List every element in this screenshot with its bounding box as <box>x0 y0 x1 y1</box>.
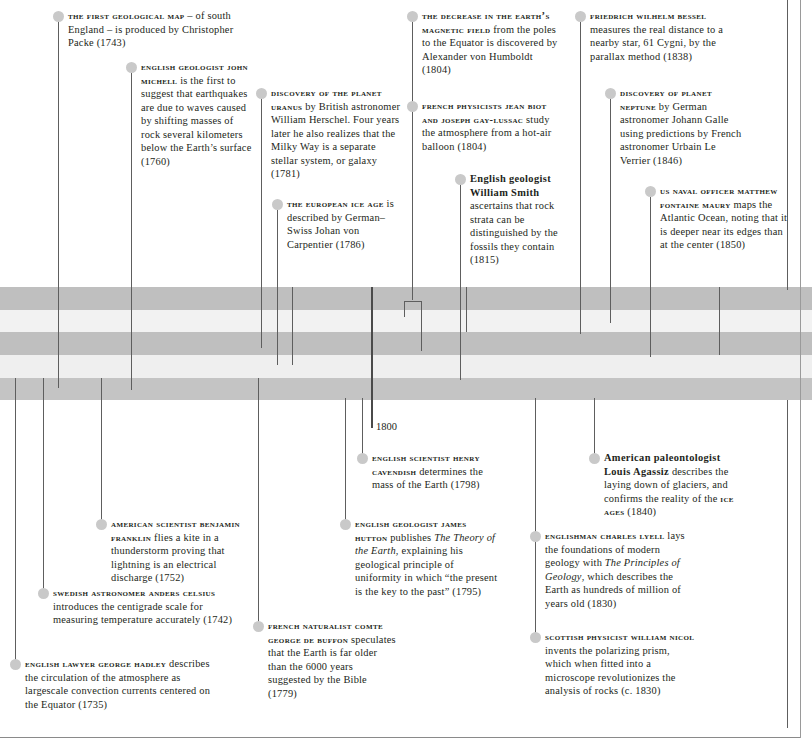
timeline-entry-uranus[interactable]: Discovery of the planet Uranus by Britis… <box>271 86 405 181</box>
entry-paragraph: American scientist Benjamin Franklin fli… <box>111 517 253 585</box>
entry-paragraph: Discovery of the planet Uranus by Britis… <box>271 86 405 181</box>
timeline-entry-james-hutton[interactable]: English geologist James Hutton publishes… <box>355 517 501 598</box>
timeline-dot-john-michell[interactable] <box>126 62 137 73</box>
entry-paragraph: Friedrich Wilhelm Bessel measures the re… <box>590 9 726 63</box>
entry-body: is the first to suggest that earthquakes… <box>141 75 252 167</box>
connector-george-hadley <box>15 378 16 662</box>
timeline-dot-louis-agassiz[interactable] <box>589 453 600 464</box>
timeline-entry-anders-celsius[interactable]: Swedish astronomer Anders Celsius introd… <box>53 586 235 627</box>
entry-body: by British astronomer William Herschel. … <box>271 101 400 180</box>
entry-paragraph: The European ice age is described by Ger… <box>287 197 399 251</box>
entry-title: English geologist William Smith <box>470 173 551 198</box>
entry-paragraph: The decrease in the Earth’s magnetic fie… <box>422 9 560 77</box>
timeline-entry-william-nicol[interactable]: Scottish physicist William Nicol invents… <box>545 630 695 698</box>
entry-body: measures the real distance to a nearby s… <box>590 24 723 62</box>
connector-short-5 <box>787 400 788 728</box>
timeline-entry-louis-agassiz[interactable]: American paleontologist Louis Agassiz de… <box>604 451 740 519</box>
entry-paragraph: American paleontologist Louis Agassiz de… <box>604 451 740 519</box>
connector-james-hutton <box>345 398 346 522</box>
timeline-entry-earth-magnetic-field[interactable]: The decrease in the Earth’s magnetic fie… <box>422 9 560 77</box>
entry-body: invents the polarizing prism, which when… <box>545 645 676 697</box>
entry-paragraph: French naturalist Comte George de Buffon… <box>268 619 398 700</box>
connector-short-3 <box>719 287 720 355</box>
timeline-dot-bessel[interactable] <box>575 11 586 22</box>
timeline-dot-james-hutton[interactable] <box>340 519 351 530</box>
timeline-dot-william-nicol[interactable] <box>530 632 541 643</box>
timeline-entry-european-ice-age[interactable]: The European ice age is described by Ger… <box>287 197 399 251</box>
page-rule-bottom <box>0 737 800 738</box>
timeline-dot-maury[interactable] <box>645 186 656 197</box>
timeline-dot-biot-gay-lussac[interactable] <box>407 101 418 112</box>
band-light-2 <box>0 355 812 378</box>
timeline-entry-benjamin-franklin[interactable]: American scientist Benjamin Franklin fli… <box>111 517 253 585</box>
timeline-entry-john-michell[interactable]: English geologist John Michell is the fi… <box>141 60 253 168</box>
connector-henry-cavendish <box>362 398 363 456</box>
band-dark-3 <box>0 378 812 400</box>
timeline-page: The first geological map – of south Engl… <box>0 0 812 748</box>
timeline-entry-william-smith[interactable]: English geologist William Smith ascertai… <box>470 172 578 267</box>
connector-european-ice-age <box>277 210 278 365</box>
timeline-entry-first-geological-map[interactable]: The first geological map – of south Engl… <box>68 9 238 50</box>
entry-paragraph: Englishman Charles Lyell lays the founda… <box>545 529 691 610</box>
entry-paragraph: Swedish astronomer Anders Celsius introd… <box>53 586 235 627</box>
timeline-entry-george-hadley[interactable]: English lawyer George Hadley describes t… <box>25 657 217 711</box>
connector-midB <box>421 301 422 351</box>
timeline-entry-charles-lyell[interactable]: Englishman Charles Lyell lays the founda… <box>545 529 691 610</box>
axis-1800-marker <box>371 287 373 428</box>
connector-first-geological-map <box>58 22 59 388</box>
connector-maury <box>650 197 651 357</box>
connector-midA <box>404 301 405 317</box>
timeline-dot-william-smith[interactable] <box>455 174 466 185</box>
entry-paragraph: US naval officer Matthew Fontaine Maury … <box>660 184 788 252</box>
connector-anders-celsius <box>43 378 44 591</box>
timeline-entry-biot-gay-lussac[interactable]: French physicists Jean Biot and Joseph G… <box>422 99 564 153</box>
band-dark-1 <box>0 287 812 310</box>
connector-benjamin-franklin <box>101 378 102 522</box>
connector-william-smith <box>460 185 461 380</box>
timeline-dot-first-geological-map[interactable] <box>53 11 64 22</box>
connector-william-nicol <box>535 398 536 635</box>
entry-title: Scottish physicist William Nicol <box>545 631 694 642</box>
band-dark-2 <box>0 332 812 355</box>
axis-year-label: 1800 <box>376 421 397 432</box>
connector-louis-agassiz <box>594 398 595 456</box>
connector-biot-gay-lussac <box>412 112 413 300</box>
entry-title: Englishman Charles Lyell <box>545 530 664 541</box>
connector-short-2 <box>466 287 467 332</box>
entry-title: Friedrich Wilhelm Bessel <box>590 10 706 21</box>
connector-bessel <box>580 22 581 334</box>
timeline-dot-uranus[interactable] <box>256 88 267 99</box>
entry-title: The first geological map <box>68 10 185 21</box>
connector-john-michell <box>131 73 132 390</box>
timeline-dot-european-ice-age[interactable] <box>272 199 283 210</box>
entry-body: ascertains that rock strata can be disti… <box>470 200 558 265</box>
entry-paragraph: Discovery of planet Neptune by German as… <box>620 86 744 167</box>
timeline-dot-neptune[interactable] <box>605 88 616 99</box>
timeline-dot-comte-de-buffon[interactable] <box>253 621 264 632</box>
timeline-dot-earth-magnetic-field[interactable] <box>407 11 418 22</box>
timeline-entry-neptune[interactable]: Discovery of planet Neptune by German as… <box>620 86 744 167</box>
timeline-entry-bessel[interactable]: Friedrich Wilhelm Bessel measures the re… <box>590 9 726 63</box>
entry-paragraph: The first geological map – of south Engl… <box>68 9 238 50</box>
entry-paragraph: English geologist James Hutton publishes… <box>355 517 501 598</box>
connector-midA-horizontal <box>404 301 422 302</box>
timeline-dot-henry-cavendish[interactable] <box>357 453 368 464</box>
timeline-dot-anders-celsius[interactable] <box>38 588 49 599</box>
entry-body: introduces the centigrade scale for meas… <box>53 601 232 626</box>
entry-body: publishes <box>387 532 434 543</box>
entry-body-continued: (1840) <box>625 506 657 517</box>
entry-title: The European ice age <box>287 198 384 209</box>
page-rule-right <box>800 0 801 738</box>
timeline-entry-maury[interactable]: US naval officer Matthew Fontaine Maury … <box>660 184 788 252</box>
timeline-dot-george-hadley[interactable] <box>10 659 21 670</box>
timeline-dot-charles-lyell[interactable] <box>530 531 541 542</box>
entry-paragraph: Scottish physicist William Nicol invents… <box>545 630 695 698</box>
timeline-entry-henry-cavendish[interactable]: English scientist Henry Cavendish determ… <box>372 451 498 492</box>
entry-title: English lawyer George Hadley <box>25 658 166 669</box>
band-light-1 <box>0 310 812 332</box>
entry-paragraph: English geologist John Michell is the fi… <box>141 60 253 168</box>
timeline-entry-comte-de-buffon[interactable]: French naturalist Comte George de Buffon… <box>268 619 398 700</box>
entry-paragraph: English geologist William Smith ascertai… <box>470 172 578 267</box>
connector-short-1 <box>292 287 293 365</box>
timeline-dot-benjamin-franklin[interactable] <box>96 519 107 530</box>
